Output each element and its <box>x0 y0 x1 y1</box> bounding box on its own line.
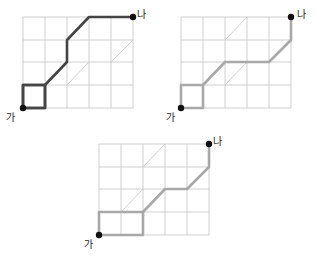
diagonal-shortcut <box>111 40 133 62</box>
end-point-2 <box>288 14 294 20</box>
start-label-1: 가 <box>6 112 15 123</box>
start-label-3: 가 <box>84 239 93 250</box>
start-label-2: 가 <box>166 112 175 123</box>
start-point-3 <box>96 232 102 238</box>
diagonal-shortcut <box>225 17 247 40</box>
diagonal-shortcut <box>67 62 89 85</box>
end-label-3: 나 <box>213 136 222 147</box>
end-point-3 <box>206 141 212 147</box>
diagonal-shortcut <box>143 144 165 167</box>
route-1-path <box>23 85 45 108</box>
end-label-1: 나 <box>137 9 146 20</box>
start-point-2 <box>178 105 184 111</box>
end-label-2: 나 <box>297 9 306 20</box>
route-diagrams: 가 나 가 나 가 나 <box>0 0 315 256</box>
grid-3 <box>99 144 209 235</box>
grid-1 <box>23 17 133 108</box>
diagonal-shortcut <box>121 189 143 212</box>
diagonal-shortcut <box>225 62 247 85</box>
start-point-1 <box>20 105 26 111</box>
end-point-1 <box>130 14 136 20</box>
route-2-path <box>181 17 291 108</box>
route-3-path <box>99 144 209 235</box>
route-1-path <box>23 17 133 108</box>
